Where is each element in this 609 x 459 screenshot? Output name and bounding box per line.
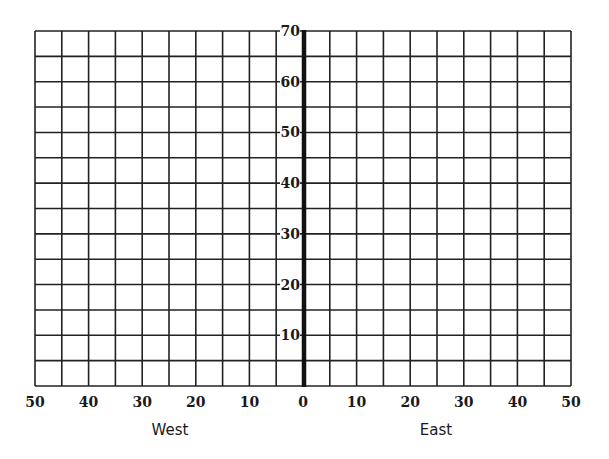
x-tick-label: 30 bbox=[132, 394, 152, 410]
y-tick-label: 40 bbox=[281, 175, 301, 191]
y-tick-label: 70 bbox=[281, 23, 301, 39]
y-tick-label: 30 bbox=[281, 226, 301, 242]
x-tick-label: 10 bbox=[240, 394, 260, 410]
y-tick-label: 50 bbox=[281, 124, 301, 140]
x-tick-label: 10 bbox=[347, 394, 367, 410]
west-label: West bbox=[152, 421, 189, 439]
y-tick-label: 10 bbox=[281, 327, 301, 343]
x-tick-label: 40 bbox=[79, 394, 99, 410]
y-tick-label: 60 bbox=[281, 74, 301, 90]
coordinate-grid: 10203040506070 504030201001020304050 Wes… bbox=[0, 0, 609, 459]
x-tick-label: 20 bbox=[400, 394, 420, 410]
x-tick-label: 50 bbox=[25, 394, 45, 410]
y-axis-labels: 10203040506070 bbox=[280, 23, 300, 343]
x-tick-label: 50 bbox=[561, 394, 581, 410]
x-tick-label: 30 bbox=[454, 394, 474, 410]
x-tick-label: 0 bbox=[298, 394, 308, 410]
x-axis-labels: 504030201001020304050 bbox=[25, 394, 581, 410]
y-tick-label: 20 bbox=[281, 277, 301, 293]
x-tick-label: 40 bbox=[508, 394, 528, 410]
x-tick-label: 20 bbox=[186, 394, 206, 410]
east-label: East bbox=[420, 421, 452, 439]
